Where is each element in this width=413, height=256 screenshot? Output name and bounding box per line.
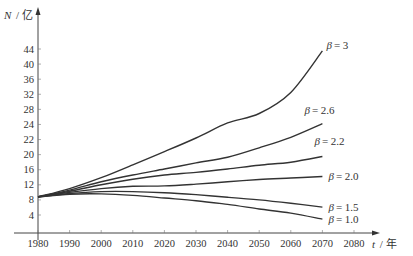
y-axis-arrow-icon [36,7,41,15]
y-axis-label-var: N [3,9,12,21]
beta-value: = 1.0 [336,213,359,225]
y-tick-label: 16 [24,164,35,175]
series-label: β= 2.6 [303,104,335,116]
beta-symbol: β [313,135,320,147]
y-tick-label: 44 [24,44,35,55]
population-projection-chart: N / 亿 t / 年 4812162022242832364044 19801… [0,0,413,256]
x-axis-label-unit: / 年 [380,237,397,250]
y-tick-label: 20 [24,149,35,160]
series-line-6 [38,194,322,219]
x-tick-label: 2030 [186,238,207,249]
x-tick-label: 2080 [344,238,365,249]
beta-symbol: β [327,170,334,182]
x-axis-label: t / 年 [372,237,397,250]
series-label: β= 1.5 [327,201,359,213]
y-tick-label: 36 [24,74,35,85]
series-line-1 [38,51,322,197]
x-tick-label: 2010 [122,238,143,249]
beta-value: = 2.2 [322,135,345,147]
beta-symbol: β [303,104,310,116]
beta-value: = 2.0 [336,170,359,182]
x-tick-label: 1990 [59,238,80,249]
beta-symbol: β [325,39,332,51]
x-axis-label-var: t [372,238,376,250]
beta-value: = 2.6 [312,104,335,116]
beta-value: = 1.5 [336,201,359,213]
series-label: β= 3 [325,39,348,51]
y-tick-label: 40 [24,59,35,70]
y-axis-label-unit: / 亿 [16,9,33,21]
series-line-2 [38,124,322,197]
series-lines [38,51,322,219]
y-axis-label: N / 亿 [3,9,33,21]
x-tick-label: 2060 [280,238,301,249]
x-tick-label: 2070 [312,238,333,249]
y-tick-label: 8 [29,194,34,205]
series-label: β= 2.2 [313,135,344,147]
beta-value: = 3 [334,39,349,51]
series-label: β= 2.0 [327,170,359,182]
x-tick-label: 2040 [217,238,238,249]
series-label: β= 1.0 [327,213,359,225]
y-tick-label: 32 [24,89,35,100]
beta-symbol: β [327,213,334,225]
x-tick-label: 1980 [28,238,49,249]
x-axis-arrow-icon [372,231,380,236]
y-tick-label: 28 [24,104,35,115]
y-tick-label: 4 [29,210,35,221]
beta-symbol: β [327,201,334,213]
x-tick-label: 2000 [91,238,112,249]
y-tick-label: 24 [24,119,35,130]
y-tick-label: 22 [24,134,35,145]
x-tick-label: 2050 [249,238,270,249]
x-tick-label: 2020 [154,238,175,249]
y-tick-label: 12 [24,179,35,190]
